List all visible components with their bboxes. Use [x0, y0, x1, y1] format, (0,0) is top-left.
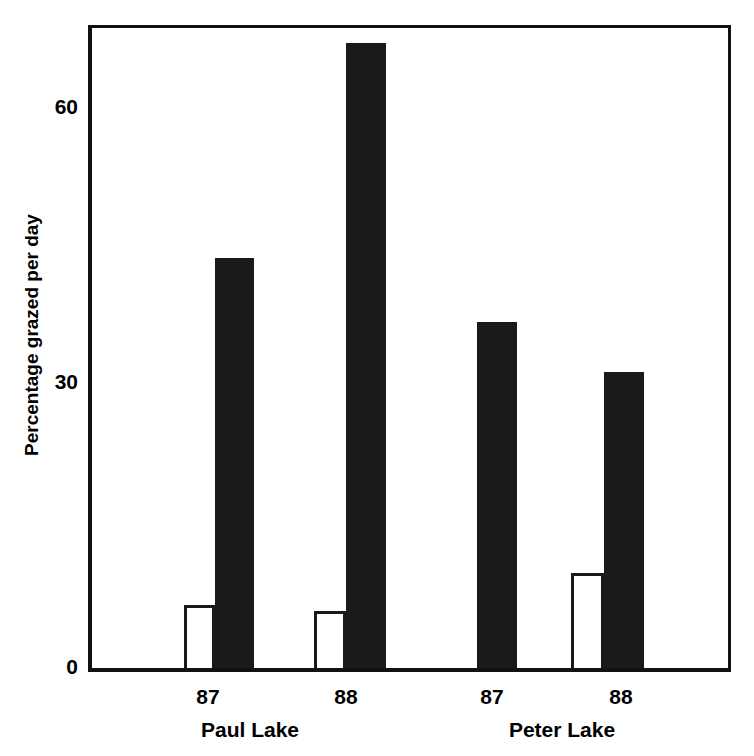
- group-label-peter-lake: Peter Lake: [509, 718, 615, 742]
- y-tick-label-60: 60: [8, 95, 78, 119]
- x-tick-label-paul-88: 88: [334, 685, 357, 709]
- group-label-paul-lake: Paul Lake: [201, 718, 299, 742]
- y-tick-label-30-wrap: 30: [0, 385, 78, 386]
- bar-paul-lake-87-open: [184, 605, 215, 668]
- bar-peter-lake-88-filled: [604, 372, 644, 668]
- x-tick-label-peter-87: 87: [480, 685, 503, 709]
- bar-peter-lake-87-filled: [477, 322, 517, 668]
- plot-frame: [88, 25, 731, 672]
- bar-chart-figure: Percentage grazed per day 60 30 0 87: [0, 0, 754, 756]
- x-tick-label-paul-87: 87: [196, 685, 219, 709]
- bar-peter-lake-88-open: [571, 573, 604, 668]
- bar-paul-lake-88-open: [314, 611, 346, 668]
- y-tick-label-60-wrap: 60: [0, 110, 78, 111]
- plot-area: [92, 28, 728, 668]
- y-tick-label-0-wrap: 0: [0, 670, 78, 671]
- y-tick-label-30: 30: [8, 370, 78, 394]
- y-tick-label-0: 0: [8, 655, 78, 679]
- y-axis-title: Percentage grazed per day: [21, 185, 43, 485]
- bar-paul-lake-88-filled: [346, 43, 386, 668]
- x-tick-label-peter-88: 88: [609, 685, 632, 709]
- bar-paul-lake-87-filled: [215, 258, 254, 668]
